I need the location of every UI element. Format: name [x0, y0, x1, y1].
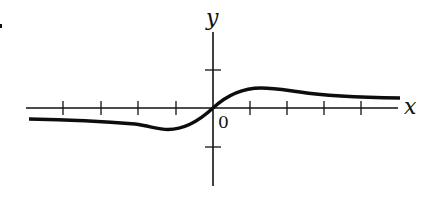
- function-graph: y x 0: [0, 0, 423, 198]
- y-axis-label: y: [205, 5, 219, 30]
- x-axis-label: x: [404, 94, 417, 119]
- stray-dot: [0, 24, 2, 28]
- origin-label: 0: [218, 112, 229, 132]
